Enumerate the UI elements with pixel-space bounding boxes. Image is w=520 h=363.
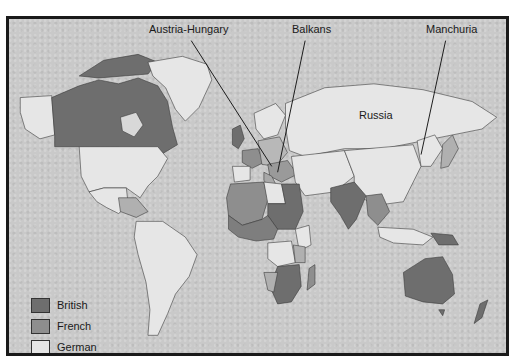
legend-label-french: French — [57, 320, 91, 332]
legend-item-british: British — [31, 295, 97, 315]
region-manchuria — [417, 135, 443, 166]
legend: British French German — [31, 295, 97, 356]
region-tasmania — [439, 310, 445, 316]
region-canada — [52, 78, 178, 159]
region-iberia — [232, 166, 250, 182]
label-balkans: Balkans — [292, 23, 331, 35]
region-scandinavia — [254, 103, 285, 138]
legend-swatch-british — [31, 298, 50, 313]
legend-swatch-german — [31, 340, 50, 355]
region-canada-arctic — [79, 54, 158, 78]
leader-austria-hungary — [191, 41, 272, 167]
map-frame: Austria-Hungary Balkans Manchuria Russia… — [6, 16, 509, 356]
region-japan — [441, 135, 459, 168]
region-uk — [232, 125, 244, 149]
legend-item-german: German — [31, 337, 97, 356]
region-german-east-africa — [293, 245, 305, 263]
label-russia: Russia — [359, 109, 393, 121]
region-alaska — [20, 96, 54, 139]
region-madagascar — [307, 265, 315, 291]
label-manchuria: Manchuria — [426, 23, 477, 35]
legend-label-german: German — [57, 341, 97, 353]
legend-swatch-french — [31, 319, 50, 334]
label-austria-hungary: Austria-Hungary — [149, 23, 228, 35]
region-caribbean — [118, 198, 147, 218]
legend-label-british: British — [57, 299, 88, 311]
region-australia — [403, 257, 454, 304]
region-new-zealand — [474, 300, 488, 324]
region-new-guinea — [431, 233, 459, 245]
region-se-asia-islands — [378, 227, 433, 245]
region-congo — [268, 241, 296, 267]
region-south-america — [134, 221, 197, 335]
legend-item-french: French — [31, 316, 97, 336]
